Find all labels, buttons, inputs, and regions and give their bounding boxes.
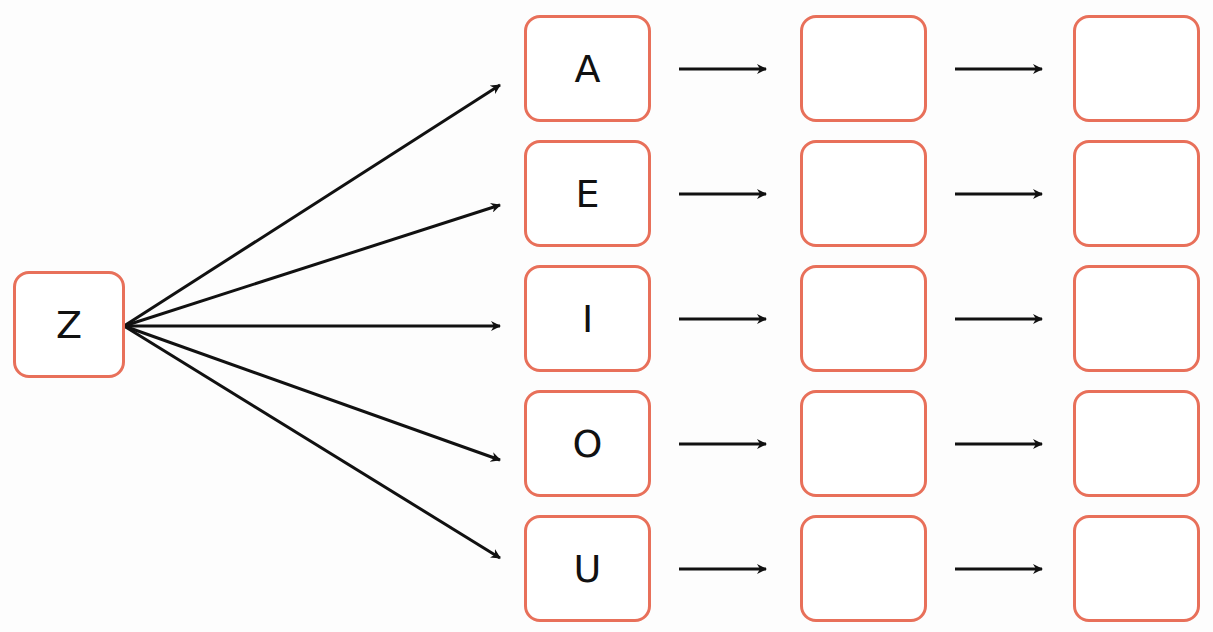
answer-box-row5-step2[interactable] [1073,515,1200,622]
letter-box-e: E [524,140,651,247]
letter-box-i: I [524,265,651,372]
letter-label: E [575,172,599,216]
answer-box-row2-step2[interactable] [1073,140,1200,247]
letter-box-a: A [524,15,651,122]
answer-box-row3-step1[interactable] [800,265,927,372]
root-box-z: Z [13,271,125,378]
answer-box-row5-step1[interactable] [800,515,927,622]
answer-box-row4-step1[interactable] [800,390,927,497]
answer-box-row1-step1[interactable] [800,15,927,122]
arrow-z-to-a [124,85,500,326]
answer-box-row1-step2[interactable] [1073,15,1200,122]
root-label: Z [56,303,82,347]
arrow-z-to-o [124,326,500,460]
letter-label: I [582,297,593,341]
arrow-z-to-u [124,326,500,558]
answer-box-row2-step1[interactable] [800,140,927,247]
letter-label: A [575,47,601,91]
arrow-z-to-e [124,205,500,326]
letter-label: O [573,422,603,466]
answer-box-row3-step2[interactable] [1073,265,1200,372]
letter-box-u: U [524,515,651,622]
letter-label: U [574,547,602,591]
letter-box-o: O [524,390,651,497]
answer-box-row4-step2[interactable] [1073,390,1200,497]
